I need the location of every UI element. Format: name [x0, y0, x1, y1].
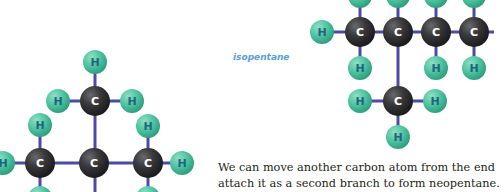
svg-text:H: H	[430, 95, 439, 108]
carbon-atom: C	[383, 86, 413, 116]
svg-text:H: H	[469, 0, 478, 3]
svg-text:H: H	[53, 95, 62, 108]
hydrogen-atom: H	[136, 114, 160, 138]
hydrogen-atom: H	[83, 50, 107, 74]
hydrogen-atom: H	[386, 125, 410, 149]
svg-text:H: H	[431, 62, 440, 75]
hydrogen-atom: H	[170, 151, 194, 175]
svg-text:H: H	[431, 0, 440, 3]
body-paragraph: We can move another carbon atom from the…	[218, 160, 504, 192]
carbon-atom: C	[421, 17, 451, 47]
svg-text:C: C	[36, 157, 44, 170]
hydrogen-atom: H	[28, 186, 52, 192]
hydrogen-atom: H	[310, 20, 334, 44]
svg-text:C: C	[90, 157, 98, 170]
svg-text:C: C	[394, 26, 402, 39]
body-line-1: We can move another carbon atom from the…	[218, 160, 504, 176]
hydrogen-atom: H	[424, 0, 448, 8]
svg-text:H: H	[90, 56, 99, 69]
isopentane-caption: isopentane	[233, 52, 289, 62]
carbon-atom: C	[25, 148, 55, 178]
carbon-atom: C	[383, 17, 413, 47]
svg-text:H: H	[35, 119, 44, 132]
hydrogen-atom: H	[136, 186, 160, 192]
svg-text:H: H	[143, 120, 152, 133]
carbon-atom: C	[459, 17, 489, 47]
svg-text:C: C	[356, 26, 364, 39]
svg-text:C: C	[394, 95, 402, 108]
hydrogen-atom: H	[348, 89, 372, 113]
hydrogen-atom: H	[120, 89, 144, 113]
hydrogen-atom: H	[348, 56, 372, 80]
svg-text:C: C	[432, 26, 440, 39]
carbon-atom: C	[345, 17, 375, 47]
hydrogen-atom: H	[462, 56, 486, 80]
svg-text:H: H	[393, 0, 402, 3]
body-line-2: attach it as a second branch to form neo…	[218, 176, 504, 192]
hydrogen-atom: H	[423, 89, 447, 113]
svg-text:H: H	[127, 95, 136, 108]
svg-text:C: C	[470, 26, 478, 39]
carbon-atom: C	[79, 148, 109, 178]
svg-text:H: H	[469, 62, 478, 75]
svg-text:H: H	[0, 157, 8, 170]
svg-text:H: H	[355, 62, 364, 75]
svg-text:H: H	[355, 95, 364, 108]
carbon-atom: C	[80, 86, 110, 116]
svg-text:H: H	[355, 0, 364, 3]
svg-text:C: C	[144, 157, 152, 170]
hydrogen-atom: H	[424, 56, 448, 80]
hydrogen-atom: H	[0, 151, 15, 175]
hydrogen-atom: H	[462, 0, 486, 8]
svg-text:H: H	[317, 26, 326, 39]
hydrogen-atom: H	[348, 0, 372, 8]
carbon-atom: C	[133, 148, 163, 178]
hydrogen-atom: H	[46, 89, 70, 113]
svg-text:H: H	[177, 157, 186, 170]
hydrogen-atom: H	[28, 113, 52, 137]
hydrogen-atom: H	[386, 0, 410, 8]
svg-text:H: H	[393, 131, 402, 144]
svg-text:C: C	[91, 95, 99, 108]
